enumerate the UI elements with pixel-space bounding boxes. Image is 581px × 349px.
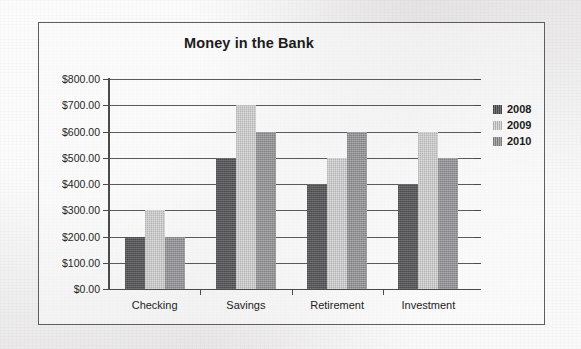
y-axis-tick	[103, 210, 109, 211]
y-axis-tick	[103, 184, 109, 185]
bar-group	[216, 79, 276, 289]
bar-savings-2008[interactable]	[216, 158, 236, 289]
chart-legend: 200820092010	[493, 101, 531, 149]
plot-area: $0.00$100.00$200.00$300.00$400.00$500.00…	[109, 79, 474, 289]
bar-investment-2009[interactable]	[418, 132, 438, 290]
legend-item-2008[interactable]: 2008	[493, 101, 531, 117]
y-axis-tick-right	[474, 184, 481, 185]
y-axis-tick-right	[474, 237, 481, 238]
y-axis-tick-right	[474, 158, 481, 159]
bar-group	[307, 79, 367, 289]
category-tick	[383, 289, 384, 295]
bar-retirement-2008[interactable]	[307, 184, 327, 289]
bar-checking-2009[interactable]	[145, 210, 165, 289]
y-axis-tick-right	[474, 263, 481, 264]
y-axis-tick	[103, 132, 109, 133]
legend-item-2009[interactable]: 2009	[493, 117, 531, 133]
y-axis-tick	[103, 158, 109, 159]
y-axis-tick	[103, 105, 109, 106]
category-label-checking: Checking	[132, 299, 178, 311]
y-axis-label: $800.00	[62, 73, 100, 85]
y-axis-label: $400.00	[62, 178, 100, 190]
bar-group	[398, 79, 458, 289]
y-axis-tick-right	[474, 210, 481, 211]
y-axis-tick	[103, 237, 109, 238]
bar-retirement-2010[interactable]	[347, 132, 367, 290]
y-axis-label: $100.00	[62, 257, 100, 269]
bar-retirement-2009[interactable]	[327, 158, 347, 289]
category-tick	[200, 289, 201, 295]
bar-checking-2008[interactable]	[125, 237, 145, 290]
legend-swatch-icon-2008	[493, 105, 502, 114]
y-axis-tick	[103, 79, 109, 80]
y-axis-tick-right	[474, 132, 481, 133]
legend-label-2009: 2009	[507, 119, 531, 131]
legend-label-2008: 2008	[507, 103, 531, 115]
y-axis-label: $500.00	[62, 152, 100, 164]
y-axis-tick-right	[474, 105, 481, 106]
legend-item-2010[interactable]: 2010	[493, 133, 531, 149]
legend-label-2010: 2010	[507, 135, 531, 147]
y-axis-tick-right	[474, 289, 481, 290]
bar-checking-2010[interactable]	[165, 237, 185, 290]
category-tick	[292, 289, 293, 295]
y-axis-label: $700.00	[62, 99, 100, 111]
category-label-savings: Savings	[226, 299, 265, 311]
y-axis-tick-right	[474, 79, 481, 80]
bar-group	[125, 79, 185, 289]
y-axis-tick	[103, 289, 109, 290]
chart-frame: Money in the Bank $0.00$100.00$200.00$30…	[38, 22, 545, 325]
category-label-retirement: Retirement	[310, 299, 364, 311]
category-label-investment: Investment	[401, 299, 455, 311]
y-axis-label: $200.00	[62, 231, 100, 243]
legend-swatch-icon-2010	[493, 137, 502, 146]
y-axis-tick	[103, 263, 109, 264]
bar-savings-2009[interactable]	[236, 105, 256, 289]
y-axis-label: $600.00	[62, 126, 100, 138]
bar-investment-2008[interactable]	[398, 184, 418, 289]
y-axis-label: $0.00	[74, 283, 100, 295]
legend-swatch-icon-2009	[493, 121, 502, 130]
bar-investment-2010[interactable]	[438, 158, 458, 289]
chart-title: Money in the Bank	[39, 35, 459, 51]
y-axis-label: $300.00	[62, 204, 100, 216]
bar-savings-2010[interactable]	[256, 132, 276, 290]
